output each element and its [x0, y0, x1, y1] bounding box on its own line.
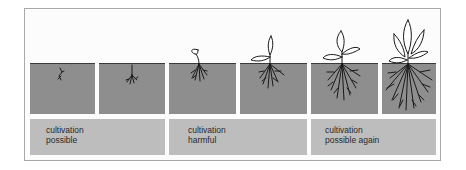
plant-stage-5-icon [323, 31, 360, 100]
plant-stage-2-icon [126, 65, 138, 84]
plant-stage-3-icon [191, 49, 207, 81]
plant-stage-6-icon [386, 20, 432, 110]
plant-stage-4-icon [251, 36, 284, 88]
plant-illustrations [0, 0, 466, 170]
plant-stage-1-icon [58, 68, 64, 80]
